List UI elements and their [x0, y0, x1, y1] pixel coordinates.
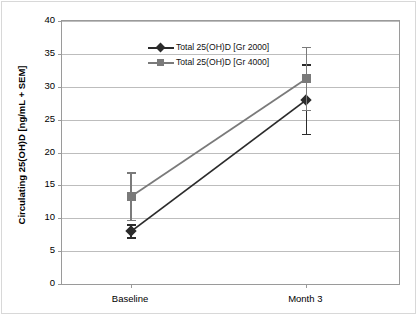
chart-figure: Circulating 25(OH)D [ng/mL + SEM] Total … [0, 0, 420, 317]
legend-label-gr-2000: Total 25(OH)D [Gr 2000] [174, 42, 269, 53]
y-axis-title: Circulating 25(OH)D [ng/mL + SEM] [14, 0, 30, 290]
error-bar-cap [127, 237, 136, 238]
legend-item-gr-4000[interactable]: Total 25(OH)D [Gr 4000] [148, 55, 276, 70]
x-tick-mark [131, 284, 132, 288]
y-tick-label: 15 [29, 179, 55, 189]
legend-label-gr-4000: Total 25(OH)D [Gr 4000] [174, 57, 269, 68]
legend-marker-diamond-icon [148, 42, 174, 54]
data-point-gr-4000-baseline[interactable] [127, 192, 136, 201]
legend-item-gr-2000[interactable]: Total 25(OH)D [Gr 2000] [148, 40, 276, 55]
series-line-gr-4000 [131, 79, 306, 197]
series-line-gr-2000 [131, 100, 306, 232]
data-point-gr-4000-month-3[interactable] [302, 74, 311, 83]
y-tick-label: 40 [29, 15, 55, 25]
y-tick-label: 20 [29, 147, 55, 157]
error-bar-cap [302, 134, 311, 135]
y-tick-label: 35 [29, 48, 55, 58]
chart-legend: Total 25(OH)D [Gr 2000] Total 25(OH)D [G… [148, 40, 276, 72]
error-bar-cap [127, 220, 136, 221]
error-bar-cap [127, 172, 136, 173]
error-bar-cap [302, 47, 311, 48]
y-tick-label: 10 [29, 212, 55, 222]
y-tick-label: 0 [29, 278, 55, 288]
x-tick-label: Month 3 [245, 293, 365, 304]
y-tick-label: 30 [29, 81, 55, 91]
legend-marker-square-icon [148, 57, 174, 69]
y-tick-label: 25 [29, 114, 55, 124]
x-tick-label: Baseline [70, 293, 190, 304]
plot-area: Total 25(OH)D [Gr 2000] Total 25(OH)D [G… [61, 20, 400, 285]
x-tick-mark [306, 284, 307, 288]
error-bar-cap [302, 110, 311, 111]
y-tick-mark [58, 284, 62, 285]
y-tick-label: 5 [29, 245, 55, 255]
